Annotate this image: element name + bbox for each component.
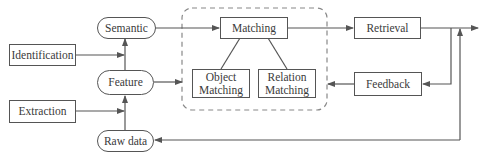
identification-node: Identification xyxy=(9,44,76,66)
extraction-node: Extraction xyxy=(9,100,76,123)
matching-label: Matching xyxy=(232,22,276,35)
feedback-node: Feedback xyxy=(354,72,422,96)
object-matching-node: Object Matching xyxy=(192,69,250,98)
matching-node: Matching xyxy=(220,17,288,39)
edge-matching-to-relation xyxy=(268,38,287,69)
extraction-label: Extraction xyxy=(19,105,67,118)
raw-data-node: Raw data xyxy=(97,130,154,152)
semantic-label: Semantic xyxy=(105,22,148,35)
semantic-node: Semantic xyxy=(97,17,156,39)
feature-node: Feature xyxy=(97,70,154,95)
relation-matching-node: Relation Matching xyxy=(258,69,316,98)
raw-data-label: Raw data xyxy=(104,135,147,148)
feedback-label: Feedback xyxy=(366,78,410,91)
edge-matching-to-object xyxy=(221,38,240,69)
retrieval-label: Retrieval xyxy=(366,22,408,35)
relation-matching-label: Relation Matching xyxy=(265,71,309,97)
identification-label: Identification xyxy=(12,49,74,62)
edge-retrieval-to-feedback xyxy=(423,28,451,84)
object-matching-label: Object Matching xyxy=(199,71,243,97)
retrieval-node: Retrieval xyxy=(354,17,421,39)
feature-label: Feature xyxy=(108,76,142,89)
